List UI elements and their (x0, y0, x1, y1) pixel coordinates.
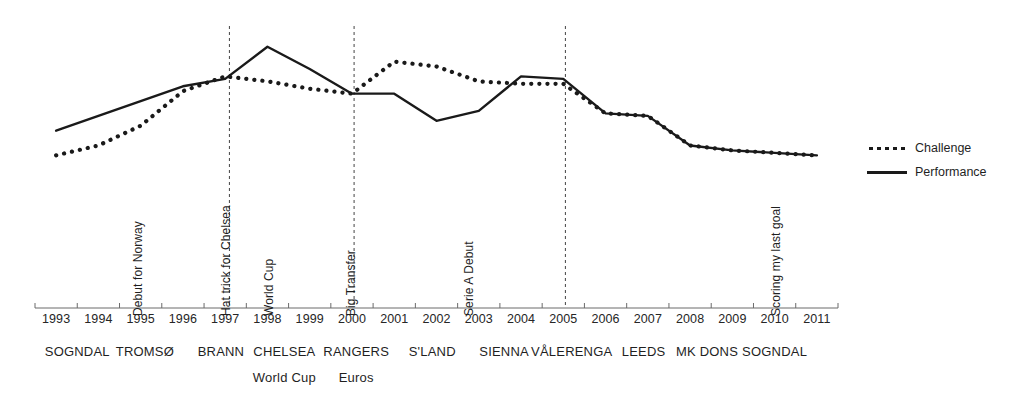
event-annotation-label: Serie A Debut (462, 241, 476, 316)
chart-legend: Challenge Performance (866, 136, 1006, 184)
legend-item-performance: Performance (866, 160, 1006, 184)
event-annotation-label: Hat trick for Chelsea (219, 205, 233, 316)
event-annotations: Debut for NorwayHat trick for ChelseaWor… (0, 0, 1012, 413)
legend-label-challenge: Challenge (915, 141, 971, 155)
event-annotation-label: World Cup (262, 259, 276, 316)
legend-item-challenge: Challenge (866, 136, 1006, 160)
event-annotation-label: Big Transfer (344, 250, 358, 316)
solid-line-icon (866, 166, 908, 178)
event-annotation-label: Debut for Norway (131, 221, 145, 316)
event-annotation-label: Scoring my last goal (769, 206, 783, 316)
legend-label-performance: Performance (915, 165, 987, 179)
dotted-line-icon (866, 142, 908, 154)
career-timeline-chart: 1993199419951996199719981999200020012002… (0, 0, 1012, 413)
